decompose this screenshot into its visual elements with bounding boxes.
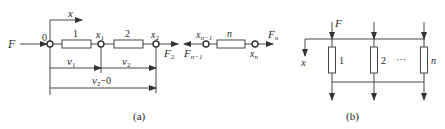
element-1-label-b: 1 — [339, 55, 344, 66]
figure-a — [20, 20, 273, 95]
element-n-label: n — [227, 28, 232, 39]
figure-b-labels: F x 1 2 ··· n (b) — [300, 17, 436, 123]
figure-b — [305, 22, 428, 100]
origin-label: 0 — [42, 32, 47, 43]
element-1-box — [62, 40, 91, 48]
node-xn-1-label: xn−1 — [195, 29, 212, 42]
force-fn-1-label: Fn−1 — [183, 47, 202, 61]
element-1-label: 1 — [73, 28, 78, 39]
v2-label: v2 — [122, 55, 131, 69]
force-label-b: F — [334, 17, 342, 29]
element-2-label-b: 2 — [381, 55, 386, 66]
spring-series-parallel-diagram: x F 0 1 2 n x1 x2 xn−1 xn F2 Fn−1 Fn v1 … — [0, 0, 445, 129]
node-x2-label: x2 — [150, 29, 159, 42]
figure-a-labels: x F 0 1 2 n x1 x2 xn−1 xn F2 Fn−1 Fn v1 … — [7, 7, 279, 123]
x-axis-label-b: x — [300, 56, 306, 68]
node-xn-label: xn — [249, 48, 258, 61]
ellipsis: ··· — [396, 54, 406, 65]
force-f2-label: F2 — [163, 47, 175, 61]
element-2-box-b — [371, 47, 378, 73]
force-fn-label: Fn — [267, 28, 279, 42]
element-n-label-b: n — [431, 55, 436, 66]
node-0 — [47, 41, 53, 47]
node-x1-label: x1 — [95, 29, 104, 42]
node-xn — [252, 41, 258, 47]
element-n-box-b — [421, 47, 428, 73]
element-2-label: 2 — [125, 28, 130, 39]
caption-a: (a) — [133, 110, 146, 123]
x-axis-label: x — [67, 7, 73, 19]
caption-b: (b) — [346, 110, 359, 123]
diagram-canvas: x F 0 1 2 n x1 x2 xn−1 xn F2 Fn−1 Fn v1 … — [0, 0, 445, 129]
force-in-label: F — [7, 37, 16, 51]
v2-0-label: v2−0 — [92, 74, 111, 88]
element-n-box — [217, 40, 245, 48]
element-2-box — [114, 40, 143, 48]
v1-label: v1 — [67, 55, 76, 69]
element-1-box-b — [329, 47, 336, 73]
